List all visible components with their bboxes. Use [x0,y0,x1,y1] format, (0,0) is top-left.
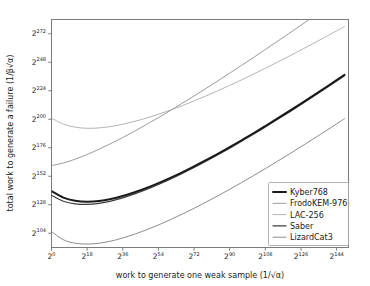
legend-label: LizardCat3 [290,233,333,242]
chart-legend[interactable]: Kyber768FrodoKEM-976LAC-256SaberLizardCa… [269,183,349,246]
x-axis-label: work to generate one weak sample (1/√α) [116,271,284,280]
chart-canvas: 20218236254272290210821262144 2104212821… [0,0,370,286]
legend-label: LAC-256 [290,211,324,220]
chart-figure: 20218236254272290210821262144 2104212821… [0,0,370,286]
legend-label: Kyber768 [290,188,328,197]
legend-label: Saber [290,222,314,231]
y-axis-label: total work to generate a failure (1/β√α) [6,55,15,212]
legend-label: FrodoKEM-976 [290,199,347,208]
